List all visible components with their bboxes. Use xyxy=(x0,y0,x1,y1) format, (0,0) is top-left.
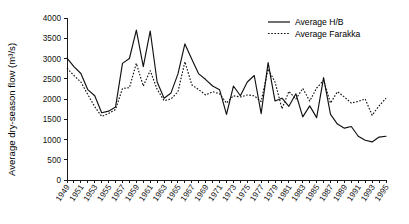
y-tick-label: 4000 xyxy=(43,14,62,23)
y-tick-label: 500 xyxy=(47,156,61,165)
data-series-layer xyxy=(67,30,386,142)
y-tick-label: 1500 xyxy=(43,115,62,124)
y-axis-label: Average dry-season flow (m³/s) xyxy=(6,43,17,176)
chart-legend: Average H/BAverage Farakka xyxy=(268,17,361,39)
legend-label-2: Average Farakka xyxy=(295,29,361,39)
y-tick-label: 0 xyxy=(56,176,61,185)
x-axis-ticks: 1949195119531955195719591961196319651967… xyxy=(54,180,391,203)
x-tick-label: 1995 xyxy=(373,183,391,203)
y-tick-label: 1000 xyxy=(43,136,62,145)
y-axis-ticks: 05001000150020002500300035004000 xyxy=(43,14,67,185)
y-tick-label: 2500 xyxy=(43,75,62,84)
series-line-2 xyxy=(67,62,386,117)
y-tick-label: 3500 xyxy=(43,34,62,43)
legend-label-1: Average H/B xyxy=(295,17,344,27)
series-line-1 xyxy=(67,30,386,142)
y-tick-label: 2000 xyxy=(43,95,62,104)
y-tick-label: 3000 xyxy=(43,55,62,64)
axes xyxy=(67,18,386,180)
y-axis-label-text: Average dry-season flow (m³/s) xyxy=(6,43,17,176)
chart-svg: Average dry-season flow (m³/s) 050010001… xyxy=(0,0,409,224)
chart-figure: Average dry-season flow (m³/s) 050010001… xyxy=(0,0,409,224)
